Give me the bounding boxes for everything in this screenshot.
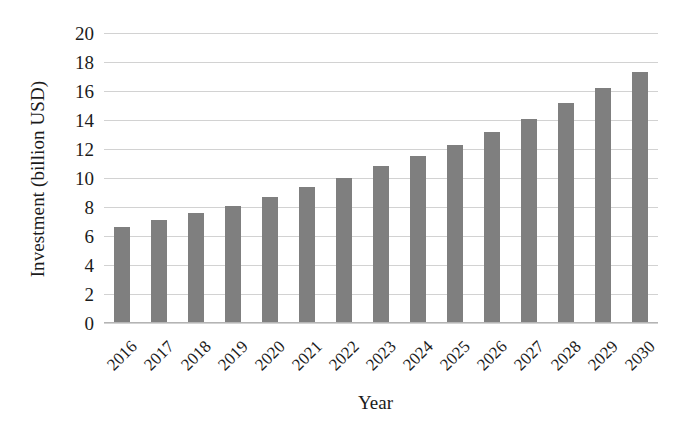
- x-tick-label: 2023: [363, 337, 399, 373]
- y-tick-label: 10: [38, 169, 94, 188]
- x-tick-label: 2016: [104, 337, 140, 373]
- x-tick-label: 2019: [215, 337, 251, 373]
- x-axis-title: Year: [0, 392, 687, 414]
- y-tick-label: 12: [38, 140, 94, 159]
- x-tick-label: 2022: [326, 337, 362, 373]
- x-tick-label: 2024: [400, 337, 436, 373]
- x-tick-label: 2029: [585, 337, 621, 373]
- x-tick-label: 2030: [621, 337, 657, 373]
- x-tick-label: 2020: [252, 337, 288, 373]
- bar: [447, 145, 463, 323]
- x-tick-label: 2028: [548, 337, 584, 373]
- y-tick-label: 16: [38, 82, 94, 101]
- bar: [151, 220, 167, 323]
- bar: [632, 72, 648, 323]
- y-tick-label: 6: [38, 227, 94, 246]
- plot-area: [104, 33, 658, 323]
- y-tick-label: 18: [38, 53, 94, 72]
- bar: [410, 156, 426, 323]
- x-axis-tick-labels: 2016201720182019202020212022202320242025…: [104, 323, 658, 393]
- bar: [262, 197, 278, 323]
- bar: [336, 178, 352, 323]
- x-tick-label: 2025: [437, 337, 473, 373]
- x-tick-label: 2026: [474, 337, 510, 373]
- y-axis-tick-labels: 02468101214161820: [38, 0, 94, 437]
- y-tick-label: 4: [38, 256, 94, 275]
- bar: [225, 206, 241, 323]
- bar-chart-figure: Investment (billion USD) 024681012141618…: [0, 0, 687, 437]
- y-tick-label: 20: [38, 24, 94, 43]
- bar: [595, 88, 611, 323]
- bar: [299, 187, 315, 323]
- y-tick-label: 8: [38, 198, 94, 217]
- x-tick-label: 2018: [178, 337, 214, 373]
- x-tick-label: 2021: [289, 337, 325, 373]
- bar: [373, 166, 389, 323]
- bar: [484, 132, 500, 323]
- x-tick-label: 2027: [511, 337, 547, 373]
- y-tick-label: 14: [38, 111, 94, 130]
- bar: [114, 227, 130, 323]
- bar: [558, 103, 574, 323]
- y-tick-label: 0: [38, 314, 94, 333]
- y-tick-label: 2: [38, 285, 94, 304]
- bar: [521, 119, 537, 323]
- x-tick-label: 2017: [141, 337, 177, 373]
- bars-group: [104, 33, 658, 323]
- bar: [188, 213, 204, 323]
